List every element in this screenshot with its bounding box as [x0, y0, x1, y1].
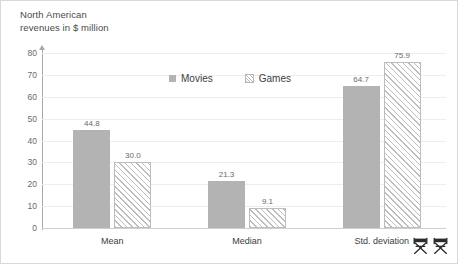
bar-value-label: 21.3 — [205, 170, 249, 179]
legend-label-movies: Movies — [181, 73, 213, 84]
chart-frame: North Americanrevenues in $ million 0102… — [0, 0, 458, 264]
bar-games-std-deviation[interactable] — [384, 62, 421, 228]
y-tick-label-20: 20 — [11, 179, 37, 189]
y-tick-label-10: 10 — [11, 201, 37, 211]
x-axis-baseline — [42, 228, 446, 229]
legend-item-games[interactable]: Games — [245, 73, 291, 84]
y-tick-label-30: 30 — [11, 157, 37, 167]
bar-games-mean[interactable] — [114, 162, 151, 228]
bar-value-label: 75.9 — [380, 51, 424, 60]
legend-label-games: Games — [259, 73, 291, 84]
legend-item-movies[interactable]: Movies — [169, 73, 213, 84]
bar-value-label: 30.0 — [111, 151, 155, 160]
y-tick-label-0: 0 — [11, 223, 37, 233]
category-label-mean: Mean — [47, 236, 177, 246]
corner-icons — [412, 237, 449, 259]
directors-chair-icon — [432, 237, 449, 259]
y-tick-label-40: 40 — [11, 136, 37, 146]
y-tick-label-80: 80 — [11, 48, 37, 58]
y-tick-label-50: 50 — [11, 114, 37, 124]
chart-legend: MoviesGames — [1, 73, 458, 84]
legend-swatch-movies — [169, 75, 176, 82]
bar-value-label: 9.1 — [246, 197, 290, 206]
category-label-median: Median — [182, 236, 312, 246]
legend-swatch-games — [245, 74, 254, 83]
directors-chair-icon — [412, 237, 429, 259]
y-tick-label-60: 60 — [11, 92, 37, 102]
bar-value-label: 44.8 — [70, 119, 114, 128]
y-axis-tick-labels: 01020304050607080 — [9, 1, 37, 264]
bar-games-median[interactable] — [249, 208, 286, 228]
bar-movies-median[interactable] — [208, 181, 245, 228]
bar-movies-mean[interactable] — [73, 130, 110, 228]
bar-movies-std-deviation[interactable] — [343, 86, 380, 228]
